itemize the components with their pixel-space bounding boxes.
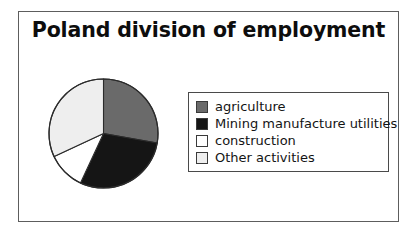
legend-item-other-activities[interactable]: Other activities bbox=[196, 149, 388, 166]
legend-swatch-icon bbox=[196, 118, 208, 130]
pie-svg bbox=[48, 78, 159, 189]
legend-swatch-icon bbox=[196, 152, 208, 164]
legend-item-label: Other activities bbox=[215, 150, 315, 165]
legend-item-label: agriculture bbox=[215, 99, 286, 114]
legend-item-construction[interactable]: construction bbox=[196, 132, 388, 149]
pie-graphic bbox=[48, 78, 159, 189]
legend-item-mining-manufacture-utilities[interactable]: Mining manufacture utilities bbox=[196, 115, 388, 132]
legend-item-label: Mining manufacture utilities bbox=[215, 116, 397, 131]
pie-chart-figure: Poland division of employment agricultur… bbox=[0, 0, 418, 240]
pie-slice[interactable] bbox=[104, 79, 158, 143]
chart-title: Poland division of employment bbox=[18, 18, 399, 42]
legend: agriculture Mining manufacture utilities… bbox=[188, 92, 389, 172]
legend-item-label: construction bbox=[215, 133, 296, 148]
legend-swatch-icon bbox=[196, 101, 208, 113]
legend-swatch-icon bbox=[196, 135, 208, 147]
legend-item-agriculture[interactable]: agriculture bbox=[196, 98, 388, 115]
